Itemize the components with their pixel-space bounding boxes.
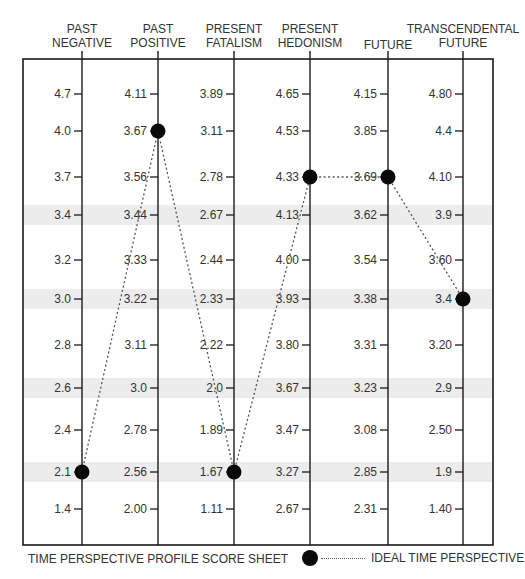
legend-dotted-line-icon [321,558,365,559]
data-point-dot-icon [456,292,471,307]
tick-label: 3.7 [54,170,71,184]
tick-label: 3.08 [354,423,378,437]
tick-label: 3.62 [354,208,378,222]
tick-label: 2.44 [200,253,224,267]
tick-label: 2.31 [354,502,378,516]
header-line2: POSITIVE [130,36,185,50]
header-line2: HEDONISM [278,36,343,50]
data-point-dot-icon [151,124,166,139]
time-perspective-chart: 4.74.03.73.43.23.02.82.62.42.11.44.113.6… [0,0,525,579]
tick-label: 2.56 [124,465,148,479]
tick-label: 1.4 [54,502,71,516]
tick-label: 4.53 [276,124,300,138]
header-line1: TRANSCENDENTAL [407,22,519,36]
data-point-dot-icon [75,465,90,480]
tick-label: 2.67 [200,208,224,222]
tick-label: 4.13 [276,208,300,222]
tick-label: 3.27 [276,465,300,479]
tick-label: 3.60 [429,253,453,267]
tick-label: 3.0 [130,381,147,395]
column-header-past-negative: PAST NEGATIVE [52,22,112,50]
header-line1 [364,24,413,38]
tick-label: 3.67 [124,124,148,138]
shaded-band [24,205,492,225]
tick-label: 4.10 [429,170,453,184]
tick-label: 1.89 [200,423,224,437]
tick-label: 3.22 [124,292,148,306]
header-line1: PRESENT [278,22,343,36]
tick-label: 1.67 [200,465,224,479]
shaded-band [24,289,492,309]
data-point-dot-icon [227,465,242,480]
tick-label: 2.22 [200,338,224,352]
tick-label: 3.38 [354,292,378,306]
chart-canvas: 4.74.03.73.43.23.02.82.62.42.11.44.113.6… [0,0,525,579]
tick-label: 2.1 [54,465,71,479]
header-line1: PRESENT [206,22,263,36]
tick-label: 3.80 [276,338,300,352]
column-header-present-fatalism: PRESENT FATALISM [206,22,263,50]
legend: IDEAL TIME PERSPECTIVE [302,550,524,566]
tick-label: 3.4 [435,292,452,306]
tick-label: 2.6 [54,381,71,395]
header-line1: PAST [130,22,185,36]
tick-label: 3.44 [124,208,148,222]
header-line2: FATALISM [206,36,263,50]
column-header-transcendental-future: TRANSCENDENTAL FUTURE [407,22,519,50]
tick-label: 3.11 [201,124,224,138]
tick-label: 2.78 [124,423,148,437]
legend-label: IDEAL TIME PERSPECTIVE [371,551,524,565]
header-line2: NEGATIVE [52,36,112,50]
tick-label: 3.31 [354,338,378,352]
tick-label: 2.78 [200,170,224,184]
data-point-dot-icon [381,170,396,185]
tick-label: 3.67 [276,381,300,395]
tick-label: 2.33 [200,292,224,306]
data-point-dot-icon [303,170,318,185]
tick-label: 3.2 [54,253,71,267]
tick-label: 3.11 [125,338,148,352]
legend-dot-icon [302,550,318,566]
header-line2: FUTURE [407,36,519,50]
tick-label: 1.9 [435,465,452,479]
tick-label: 3.23 [354,381,378,395]
column-header-future: FUTURE [364,24,413,52]
tick-label: 3.0 [54,292,71,306]
tick-label: 3.56 [124,170,148,184]
tick-label: 3.89 [200,87,224,101]
tick-label: 3.85 [354,124,378,138]
column-header-past-positive: PAST POSITIVE [130,22,185,50]
tick-label: 2.50 [429,423,453,437]
chart-footer-title: TIME PERSPECTIVE PROFILE SCORE SHEET [28,552,288,566]
tick-label: 1.40 [429,502,453,516]
tick-label: 3.4 [54,208,71,222]
tick-label: 2.9 [435,381,452,395]
tick-label: 3.33 [124,253,148,267]
tick-label: 2.8 [54,338,71,352]
tick-label: 3.54 [354,253,378,267]
tick-label: 3.20 [429,338,453,352]
tick-label: 1.11 [201,502,224,516]
tick-label: 3.47 [276,423,300,437]
tick-label: 3.9 [435,208,452,222]
tick-label: 4.15 [354,87,378,101]
tick-label: 4.11 [125,87,148,101]
tick-label: 4.0 [54,124,71,138]
tick-label: 4.65 [276,87,300,101]
column-header-present-hedonism: PRESENT HEDONISM [278,22,343,50]
header-line2: FUTURE [364,38,413,52]
tick-label: 2.67 [276,502,300,516]
tick-label: 2.85 [354,465,378,479]
tick-label: 4.4 [435,124,452,138]
tick-label: 2.00 [124,502,148,516]
tick-label: 4.00 [276,253,300,267]
shaded-band [24,462,492,482]
tick-label: 4.33 [276,170,300,184]
tick-label: 2.4 [54,423,71,437]
tick-label: 4.80 [429,87,453,101]
tick-label: 4.7 [54,87,71,101]
header-line1: PAST [52,22,112,36]
